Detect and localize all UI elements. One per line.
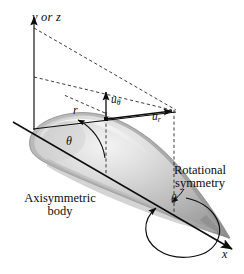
diagram-svg <box>0 0 244 274</box>
rotational-symmetry-line2: symmetry <box>174 177 226 190</box>
figure-canvas: y or z uθ ur r θ Rotational symmetry θ A… <box>0 0 244 274</box>
axisymmetric-body-line1: Axisymmetric <box>24 191 96 205</box>
u-r-label: ur <box>152 110 161 124</box>
rotation-angle-label: θ <box>171 193 177 205</box>
polar-angle-label: θ <box>66 135 72 148</box>
u-theta-label: uθ <box>111 93 120 107</box>
u-r-subscript: r <box>158 115 161 124</box>
u-theta-subscript: θ <box>117 98 121 107</box>
y-or-z-axis-label: y or z <box>32 11 61 24</box>
axisymmetric-body-label: Axisymmetric body <box>12 192 108 218</box>
axisymmetric-body-line2: body <box>12 205 108 218</box>
rotational-symmetry-label: Rotational symmetry <box>174 164 226 190</box>
radial-distance-label: r <box>73 104 78 117</box>
rotational-symmetry-line1: Rotational <box>174 163 226 177</box>
x-axis-label: x <box>222 248 227 261</box>
